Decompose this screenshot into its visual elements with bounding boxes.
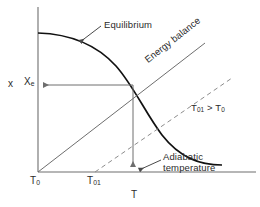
equilibrium-label: Equilibrium (104, 20, 152, 31)
temperature-comparison-label: T01 > T0 (191, 103, 225, 114)
x-axis-title: T (131, 189, 137, 200)
y-tick-label-xe: Xe (24, 76, 35, 88)
adiabatic-temperature-label: Adiabatic temperature (163, 152, 215, 173)
x-tick-label-t01: T01 (87, 175, 101, 187)
equilibrium-diagram-figure: Equilibrium Energy balance T01 > T0 Adia… (0, 0, 260, 207)
x-tick-label-t01-sub: 01 (93, 179, 101, 186)
y-tick-label-xe-base: X (24, 76, 31, 87)
equilibrium-leader-line (80, 26, 101, 42)
temperature-comparison-operator: > T (204, 102, 221, 113)
adiabatic-temperature-line-2: temperature (163, 163, 215, 174)
equilibrium-curve (38, 33, 222, 165)
x-tick-label-t0: T0 (30, 175, 40, 187)
x-tick-label-t0-sub: 0 (36, 179, 40, 186)
y-axis-title: x (8, 78, 13, 89)
y-tick-label-xe-sub: e (31, 80, 35, 87)
temperature-comparison-sub2: 0 (221, 106, 225, 113)
adiabatic-leader-line (139, 160, 161, 170)
